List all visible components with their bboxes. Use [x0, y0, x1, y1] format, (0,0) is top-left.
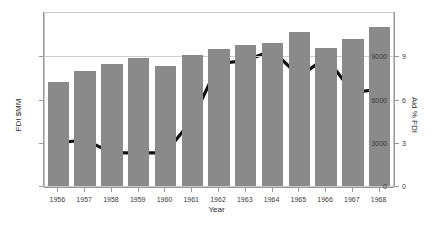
y-tick-label-right-3: 3	[402, 139, 406, 146]
x-tick-1958	[111, 188, 112, 192]
x-tick-1957	[84, 188, 85, 192]
bar-1957	[74, 71, 95, 186]
y-tick-label-right-0: 0	[402, 183, 406, 190]
x-tick-label-1967: 1967	[344, 196, 360, 203]
x-tick-label-1957: 1957	[76, 196, 92, 203]
bar-1965	[289, 32, 310, 186]
bar-1962	[208, 49, 229, 186]
y-tick-left-3000	[39, 143, 43, 144]
bar-1956	[48, 82, 69, 186]
y-tick-label-left-3000: 3000	[371, 139, 387, 146]
x-tick-label-1959: 1959	[130, 196, 146, 203]
y-tick-left-0	[39, 186, 43, 187]
y-axis-left-title: FDI $MM	[14, 98, 23, 131]
x-tick-label-1956: 1956	[50, 196, 66, 203]
x-tick-1967	[352, 188, 353, 192]
y-tick-label-right-6: 6	[402, 96, 406, 103]
x-tick-1965	[298, 188, 299, 192]
y-tick-left-6000	[39, 100, 43, 101]
x-tick-1960	[164, 188, 165, 192]
bar-1967	[342, 39, 363, 186]
x-tick-label-1962: 1962	[210, 196, 226, 203]
y-tick-label-left-0: 0	[383, 183, 387, 190]
x-axis	[44, 187, 394, 192]
x-tick-label-1965: 1965	[291, 196, 307, 203]
y-axis-right-title: Aid % FDI	[409, 96, 418, 132]
plot-area	[44, 12, 394, 187]
y-tick-label-left-6000: 6000	[371, 96, 387, 103]
x-tick-label-1964: 1964	[264, 196, 280, 203]
y-tick-right-3	[395, 143, 399, 144]
x-tick-1964	[272, 188, 273, 192]
y-tick-right-0	[395, 186, 399, 187]
x-tick-1962	[218, 188, 219, 192]
bar-1959	[128, 58, 149, 186]
bar-1960	[155, 66, 176, 186]
x-tick-1956	[57, 188, 58, 192]
x-tick-1966	[325, 188, 326, 192]
y-tick-right-6	[395, 100, 399, 101]
y-tick-label-right-9: 9	[402, 53, 406, 60]
bar-1968	[369, 27, 390, 186]
x-tick-1959	[138, 188, 139, 192]
x-tick-label-1963: 1963	[237, 196, 253, 203]
y-tick-left-9000	[39, 56, 43, 57]
x-tick-1968	[379, 188, 380, 192]
x-tick-label-1960: 1960	[157, 196, 173, 203]
y-tick-label-left-9000: 9000	[371, 53, 387, 60]
bar-1964	[262, 43, 283, 186]
x-tick-label-1958: 1958	[103, 196, 119, 203]
x-tick-1961	[191, 188, 192, 192]
y-tick-right-9	[395, 56, 399, 57]
chart-figure: FDI $MM Aid % FDI Year 03000600090000369…	[0, 0, 433, 229]
x-tick-label-1966: 1966	[317, 196, 333, 203]
plot-inner	[45, 13, 393, 186]
x-tick-1963	[245, 188, 246, 192]
bar-1963	[235, 45, 256, 186]
x-axis-title: Year	[0, 205, 433, 214]
bar-1958	[101, 64, 122, 186]
bar-1966	[315, 48, 336, 186]
x-tick-label-1961: 1961	[183, 196, 199, 203]
bar-1961	[182, 55, 203, 186]
y-axis-right	[394, 12, 400, 187]
x-tick-label-1968: 1968	[371, 196, 387, 203]
